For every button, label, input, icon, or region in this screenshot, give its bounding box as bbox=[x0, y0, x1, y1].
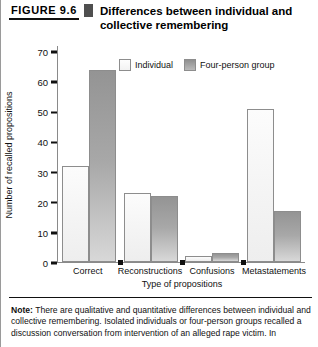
y-axis-tick-label: 40 bbox=[37, 138, 48, 147]
page-title: Differences between individual and colle… bbox=[100, 4, 305, 32]
y-axis-tick-mark-icon bbox=[51, 141, 57, 144]
x-axis-tick-labels: CorrectReconstructionsConfusionsMetastat… bbox=[58, 266, 306, 276]
y-axis-tick-20: 20 bbox=[37, 198, 57, 207]
bar-correct-four-person-group[interactable] bbox=[89, 70, 116, 262]
y-axis-tick-label: 70 bbox=[37, 48, 48, 57]
y-axis-tick-10: 10 bbox=[37, 228, 57, 237]
figure-number: FIGURE 9.6 bbox=[9, 4, 79, 20]
y-axis-tick-mark-icon bbox=[51, 262, 57, 265]
figure-card: FIGURE 9.6 Differences between individua… bbox=[0, 0, 318, 347]
bar-reconstructions-four-person-group[interactable] bbox=[151, 196, 178, 262]
x-axis-title: Type of propositions bbox=[58, 279, 306, 289]
bar-correct-individual[interactable] bbox=[62, 166, 89, 262]
header-separator-block bbox=[84, 4, 93, 17]
y-axis-tick-40: 40 bbox=[37, 138, 57, 147]
y-axis-tick-label: 20 bbox=[37, 198, 48, 207]
y-axis-tick-mark-icon bbox=[51, 201, 57, 204]
bar-confusions-four-person-group[interactable] bbox=[212, 253, 239, 262]
figure-header: FIGURE 9.6 Differences between individua… bbox=[9, 4, 314, 32]
y-axis-tick-mark-icon bbox=[51, 51, 57, 54]
y-axis-tick-label: 30 bbox=[37, 168, 48, 177]
bars-layer bbox=[58, 46, 305, 262]
bar-group-correct bbox=[58, 46, 120, 262]
y-axis-tick-50: 50 bbox=[37, 108, 57, 117]
bar-group-metastatements bbox=[243, 46, 305, 262]
figure-note: Note: There are qualitative and quantita… bbox=[11, 305, 312, 339]
y-axis-tick-mark-icon bbox=[51, 171, 57, 174]
y-axis-tick-30: 30 bbox=[37, 168, 57, 177]
bar-metastatements-individual[interactable] bbox=[247, 109, 274, 262]
y-axis-tick-label: 10 bbox=[37, 228, 48, 237]
y-axis-tick-mark-icon bbox=[51, 232, 57, 235]
bar-confusions-individual[interactable] bbox=[185, 256, 212, 262]
y-axis-tick-label: 50 bbox=[37, 108, 48, 117]
x-axis-label-metastatements: Metastatements bbox=[242, 266, 306, 276]
y-axis-title: Number of recalled propositions bbox=[4, 91, 14, 218]
bar-metastatements-four-person-group[interactable] bbox=[274, 211, 301, 262]
y-axis-tick-60: 60 bbox=[37, 78, 57, 87]
y-axis-tick-label: 60 bbox=[37, 78, 48, 87]
note-line-1: There are qualitative and quantitative d… bbox=[33, 305, 294, 315]
bar-reconstructions-individual[interactable] bbox=[124, 193, 151, 262]
x-axis-label-confusions: Confusions bbox=[182, 266, 242, 276]
y-axis-tick-mark-icon bbox=[51, 81, 57, 84]
note-divider bbox=[9, 297, 312, 298]
note-prefix: Note: bbox=[11, 305, 33, 315]
x-axis-label-reconstructions: Reconstructions bbox=[118, 266, 183, 276]
plot-area: 010203040506070 Number of recalled propo… bbox=[57, 46, 305, 263]
bar-group-reconstructions bbox=[120, 46, 182, 262]
y-axis-tick-70: 70 bbox=[37, 48, 57, 57]
bar-group-confusions bbox=[182, 46, 244, 262]
y-axis-tick-mark-icon bbox=[51, 111, 57, 114]
y-axis-tick-label: 0 bbox=[43, 259, 48, 268]
x-axis-label-correct: Correct bbox=[58, 266, 118, 276]
y-axis-tick-0: 0 bbox=[43, 259, 57, 268]
